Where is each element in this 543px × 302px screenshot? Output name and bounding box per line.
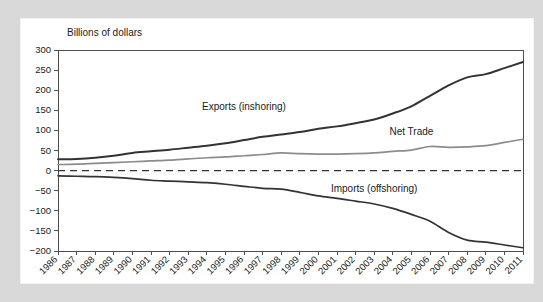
y-tick-label: −200 — [30, 245, 51, 256]
x-tick-label: 2006 — [409, 254, 432, 277]
y-tick-label: −100 — [30, 205, 51, 216]
x-tick-label: 1998 — [260, 254, 283, 277]
x-tick-label: 2009 — [464, 254, 487, 277]
x-axis-ticks: 1986198719881989199019911992199319941995… — [37, 251, 525, 276]
y-axis-ticks: 300250200150100500−50−100−150−200 — [30, 44, 58, 256]
y-tick-label: −150 — [30, 225, 51, 236]
x-tick-label: 2010 — [483, 254, 506, 277]
x-tick-label: 1990 — [111, 254, 134, 277]
chart-panel: Billions of dollars300250200150100500−50… — [21, 19, 533, 283]
net-trade-series-line — [58, 139, 523, 164]
y-tick-label: 250 — [35, 64, 51, 75]
y-tick-label: 0 — [46, 165, 51, 176]
y-axis-title: Billions of dollars — [67, 27, 142, 38]
x-tick-label: 2000 — [297, 254, 320, 277]
imports-label: Imports (offshoring) — [331, 183, 418, 194]
exports-label: Exports (inshoring) — [202, 101, 286, 112]
plot-frame — [58, 50, 523, 251]
x-tick-label: 2003 — [353, 254, 376, 277]
x-tick-label: 1997 — [241, 254, 264, 277]
x-tick-label: 1991 — [130, 254, 153, 277]
x-tick-label: 2002 — [334, 254, 357, 277]
x-tick-label: 1988 — [74, 254, 97, 277]
trade-line-chart: Billions of dollars300250200150100500−50… — [21, 19, 533, 283]
net-trade-label: Net Trade — [389, 126, 433, 137]
x-tick-label: 2005 — [390, 254, 413, 277]
x-tick-label: 2004 — [371, 254, 394, 277]
x-tick-label: 2001 — [316, 254, 339, 277]
x-tick-label: 2008 — [446, 254, 469, 277]
y-tick-label: 150 — [35, 104, 51, 115]
x-tick-label: 1993 — [167, 254, 190, 277]
x-tick-label: 1995 — [204, 254, 227, 277]
x-tick-label: 1989 — [92, 254, 115, 277]
y-tick-label: 50 — [40, 145, 51, 156]
x-tick-label: 1986 — [37, 254, 60, 277]
y-tick-label: 300 — [35, 44, 51, 55]
exports-series-line — [58, 62, 523, 159]
imports-series-line — [58, 176, 523, 248]
x-tick-label: 1987 — [55, 254, 78, 277]
x-tick-label: 2011 — [502, 254, 524, 276]
y-tick-label: −50 — [35, 185, 51, 196]
x-tick-label: 2007 — [427, 254, 450, 277]
y-tick-label: 200 — [35, 84, 51, 95]
figure-root: Billions of dollars300250200150100500−50… — [0, 0, 543, 302]
x-tick-label: 1999 — [278, 254, 301, 277]
y-tick-label: 100 — [35, 124, 51, 135]
x-tick-label: 1994 — [185, 254, 208, 277]
x-tick-label: 1992 — [148, 254, 171, 277]
x-tick-label: 1996 — [223, 254, 246, 277]
